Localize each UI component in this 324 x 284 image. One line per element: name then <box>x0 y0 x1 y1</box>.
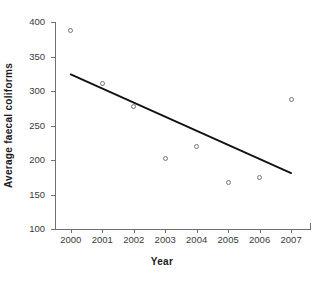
x-axis-line <box>55 229 311 230</box>
x-axis-tick-label: 2007 <box>281 235 302 245</box>
data-point <box>68 28 73 33</box>
x-axis-tick-label: 2002 <box>123 235 144 245</box>
y-axis-tick: 100 <box>51 229 55 230</box>
data-point <box>226 180 231 185</box>
x-axis-tick-label: 2001 <box>92 235 113 245</box>
x-axis-tick <box>291 229 292 233</box>
y-axis-tick-label: 400 <box>29 17 45 27</box>
x-axis-tick <box>228 229 229 233</box>
y-axis-tick-label: 200 <box>29 155 45 165</box>
x-axis-tick-label: 2005 <box>218 235 239 245</box>
x-axis-tick-label: 2004 <box>186 235 207 245</box>
x-axis-tick-label: 2003 <box>155 235 176 245</box>
x-axis-tick-label: 2000 <box>60 235 81 245</box>
x-axis-tick <box>260 229 261 233</box>
data-point <box>100 81 105 86</box>
x-axis-tick <box>71 229 72 233</box>
y-axis-tick-label: 350 <box>29 52 45 62</box>
x-axis-title: Year <box>0 256 324 267</box>
y-axis-tick-label: 100 <box>29 224 45 234</box>
y-axis-title-text: Average faecal coliforms <box>4 63 15 188</box>
data-point <box>131 104 136 109</box>
faecal-coliforms-scatter-chart: Average faecal coliforms 400350300250200… <box>0 0 324 284</box>
trend-line <box>55 22 310 229</box>
x-axis-tick <box>165 229 166 233</box>
y-axis-tick-label: 300 <box>29 86 45 96</box>
y-axis-title: Average faecal coliforms <box>2 22 16 229</box>
x-axis-tick <box>134 229 135 233</box>
x-axis-end-cap <box>310 223 311 230</box>
x-axis-tick-label: 2006 <box>249 235 270 245</box>
data-point <box>163 156 168 161</box>
x-axis-tick <box>102 229 103 233</box>
y-axis-tick-label: 250 <box>29 121 45 131</box>
y-axis-tick-label: 150 <box>29 190 45 200</box>
x-axis-tick <box>197 229 198 233</box>
plot-area: 400350300250200150100 200020012002200320… <box>55 22 310 229</box>
